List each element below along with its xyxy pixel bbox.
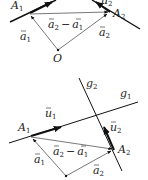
bottom-diagram: g2 g1 u1 u2 A1 A2 a1 a2 a2−a1 [9, 77, 138, 178]
label-A1: A1 [17, 121, 30, 135]
vector-u1 [31, 127, 61, 136]
label-A2-top: A2 [112, 7, 125, 21]
line-g1 [9, 102, 138, 143]
label-u2: u2 [110, 121, 122, 135]
label-a1-top: a1 [20, 30, 31, 44]
label-a1: a1 [34, 153, 45, 167]
label-u1: u1 [45, 107, 57, 121]
label-u2-top: u2 [101, 0, 113, 8]
label-A1-top: A1 [10, 0, 23, 13]
top-diagram: A1 A2 u2 O a1 a2 a2−a1 [10, 0, 140, 65]
label-g2: g2 [86, 77, 98, 91]
skew-lines-distance-figure: A1 A2 u2 O a1 a2 a2−a1 g2 g1 u1 [0, 0, 148, 180]
label-a2-minus-a1-top: a2−a1 [48, 18, 83, 32]
label-g1: g1 [120, 87, 132, 101]
label-A2: A2 [117, 143, 130, 157]
label-a2-minus-a1: a2−a1 [53, 145, 88, 159]
point-O-top [57, 49, 59, 51]
vector-u1-top [30, 2, 52, 13]
label-O-top: O [53, 52, 62, 65]
label-a2-top: a2 [99, 26, 110, 40]
point-O [65, 175, 67, 177]
vector-a2-minus-a1-top [30, 12, 108, 14]
label-a2: a2 [93, 164, 104, 178]
